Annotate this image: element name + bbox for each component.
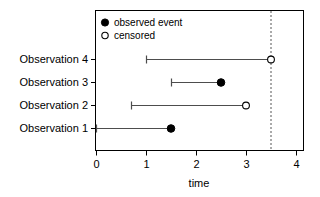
survival-timeline-chart: Observation 4 Observation 3 Observation … <box>0 0 320 197</box>
y-axis-label-observation-2: Observation 2 <box>20 99 88 111</box>
x-axis-tick-label-1: 1 <box>143 158 149 170</box>
legend-label-censored: censored <box>114 30 155 41</box>
legend-marker-observed-event-icon <box>101 19 108 26</box>
marker-censored-observation-4 <box>268 56 275 63</box>
y-axis-label-observation-4: Observation 4 <box>20 53 88 65</box>
x-axis-tick-label-0: 0 <box>93 158 99 170</box>
marker-observed-event-observation-1 <box>167 125 175 133</box>
chart-canvas: Observation 4 Observation 3 Observation … <box>0 0 320 197</box>
x-axis-tick-label-2: 2 <box>193 158 199 170</box>
marker-observed-event-observation-3 <box>217 79 225 87</box>
x-axis-title: time <box>189 177 210 189</box>
x-axis-tick-label-4: 4 <box>293 158 299 170</box>
y-axis-label-observation-3: Observation 3 <box>20 76 88 88</box>
x-axis-tick-label-3: 3 <box>243 158 249 170</box>
legend-marker-censored-icon <box>102 32 108 38</box>
legend-label-observed-event: observed event <box>114 17 183 28</box>
marker-censored-observation-2 <box>243 102 250 109</box>
y-axis-label-observation-1: Observation 1 <box>20 122 88 134</box>
